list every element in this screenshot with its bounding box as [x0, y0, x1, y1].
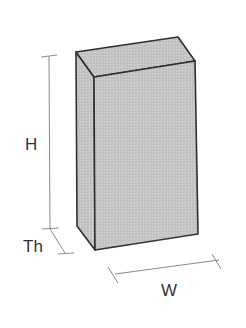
thickness-label: Th — [23, 237, 43, 256]
width-label: W — [161, 281, 177, 300]
block-body — [76, 37, 198, 250]
height-label: H — [25, 135, 37, 154]
block-diagram: H Th W — [0, 0, 246, 328]
height-dimension — [41, 55, 59, 229]
thickness-dimension — [50, 229, 74, 254]
width-dimension — [108, 254, 221, 283]
block-side-face — [76, 52, 95, 250]
